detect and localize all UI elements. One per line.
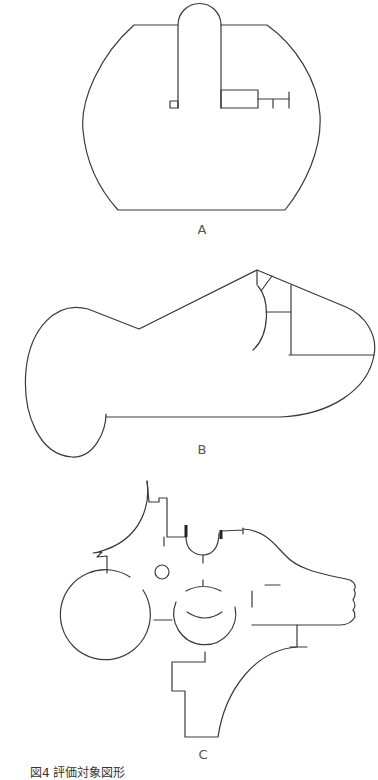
shape-a — [83, 3, 320, 210]
shape-b-label: B — [198, 443, 207, 456]
shape-a-label: A — [198, 223, 207, 236]
shape-b — [25, 270, 374, 457]
shape-c-label: C — [198, 748, 207, 761]
figure-caption: 図4 評価対象図形 — [30, 767, 125, 779]
shape-c — [60, 481, 355, 737]
